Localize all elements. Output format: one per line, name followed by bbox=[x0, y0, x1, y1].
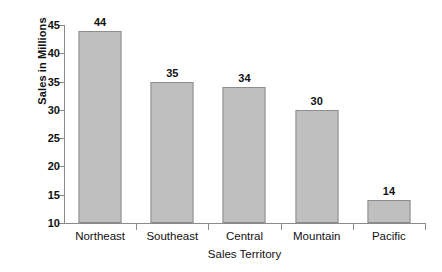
bar-slot[interactable]: 34 bbox=[208, 25, 280, 223]
plot-area: 4540353025201510 4435343014 bbox=[64, 25, 425, 223]
x-tick-mark bbox=[281, 223, 282, 230]
bars-layer: 4435343014 bbox=[64, 25, 425, 223]
y-tick-label: 25 bbox=[48, 132, 60, 144]
bar[interactable] bbox=[295, 110, 338, 223]
bar-value-label: 30 bbox=[311, 95, 323, 107]
x-axis-title: Sales Territory bbox=[64, 248, 425, 260]
x-tick-mark bbox=[353, 223, 354, 230]
y-tick-label: 20 bbox=[48, 160, 60, 172]
bar-value-label: 34 bbox=[238, 72, 250, 84]
x-category-label: Northeast bbox=[75, 230, 125, 242]
x-category-label: Pacific bbox=[372, 230, 406, 242]
bar[interactable] bbox=[223, 87, 266, 223]
x-category-label: Central bbox=[226, 230, 263, 242]
x-axis-line bbox=[64, 223, 425, 224]
bar-slot[interactable]: 14 bbox=[353, 25, 425, 223]
y-tick-label: 30 bbox=[48, 104, 60, 116]
y-tick-label: 35 bbox=[48, 76, 60, 88]
y-tick-label: 40 bbox=[48, 47, 60, 59]
bar-value-label: 14 bbox=[383, 185, 395, 197]
x-tick-mark bbox=[136, 223, 137, 230]
x-category-label: Southeast bbox=[146, 230, 198, 242]
bar[interactable] bbox=[151, 82, 194, 223]
bar-chart: Sales in Millions 4540353025201510 44353… bbox=[0, 0, 442, 272]
x-tick-mark bbox=[425, 223, 426, 230]
y-tick-label: 45 bbox=[48, 19, 60, 31]
bar[interactable] bbox=[367, 200, 410, 223]
x-axis-category-labels: NortheastSoutheastCentralMountainPacific bbox=[64, 230, 425, 246]
bar-slot[interactable]: 44 bbox=[64, 25, 136, 223]
y-tick-label: 15 bbox=[48, 189, 60, 201]
bar[interactable] bbox=[79, 31, 122, 223]
bar-value-label: 35 bbox=[166, 67, 178, 79]
x-category-label: Mountain bbox=[293, 230, 340, 242]
bar-value-label: 44 bbox=[94, 16, 106, 28]
y-axis-title: Sales in Millions bbox=[36, 0, 48, 141]
bar-slot[interactable]: 30 bbox=[281, 25, 353, 223]
y-tick-label: 10 bbox=[48, 217, 60, 229]
x-tick-mark bbox=[208, 223, 209, 230]
bar-slot[interactable]: 35 bbox=[136, 25, 208, 223]
